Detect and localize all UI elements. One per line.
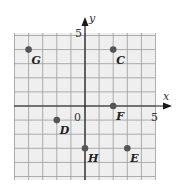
point-label: F (115, 110, 125, 123)
y-axis-label: y (88, 12, 96, 25)
point-marker (124, 145, 131, 152)
x-max-tick-label: 5 (151, 111, 158, 124)
point-marker (110, 46, 117, 53)
point-marker (25, 46, 32, 53)
point-label: H (87, 152, 99, 165)
origin-label: 0 (74, 111, 81, 124)
point-marker (54, 117, 61, 124)
point-label: C (116, 54, 125, 67)
x-axis-label: x (163, 90, 170, 103)
y-axis-arrow-icon (82, 17, 89, 26)
coordinate-plane: x y 0 5 5 GCFDHE (0, 0, 178, 192)
point-label: D (59, 124, 70, 137)
point-label: E (129, 152, 139, 165)
point-marker (110, 103, 117, 110)
point-label: G (32, 54, 41, 67)
y-max-tick-label: 5 (75, 27, 82, 40)
point-marker (82, 145, 89, 152)
x-axis-arrow-icon (163, 103, 172, 110)
